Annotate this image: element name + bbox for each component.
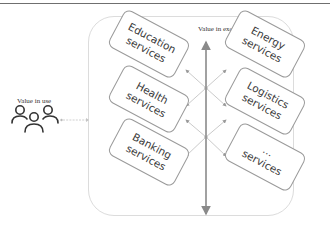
top-divider — [0, 3, 330, 4]
dashed-connector-arrow — [60, 117, 90, 123]
users-group-icon — [10, 104, 60, 134]
